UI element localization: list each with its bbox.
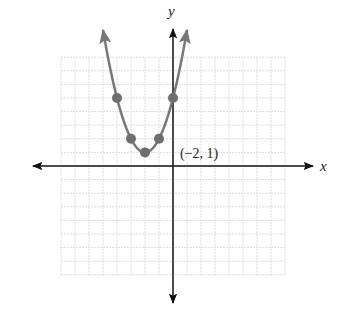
data-point (154, 134, 164, 144)
data-point (140, 147, 150, 157)
y-axis-label: y (166, 3, 175, 19)
x-axis-label: x (319, 158, 327, 174)
data-point (112, 93, 122, 103)
vertex-label: (−2, 1) (180, 146, 219, 162)
data-point (126, 134, 136, 144)
data-point (168, 93, 178, 103)
parabola-graph: y x (−2, 1) (0, 0, 344, 319)
